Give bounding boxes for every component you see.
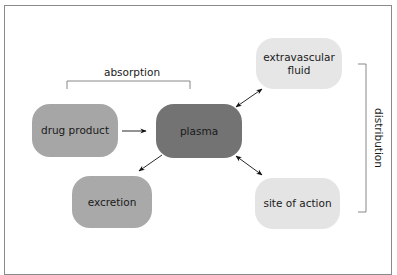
node-site-of-action: site of action bbox=[255, 178, 340, 229]
node-site-of-action-label: site of action bbox=[263, 197, 331, 210]
distribution-label: distribution bbox=[373, 105, 385, 171]
node-extravascular-fluid-label-line1: extravascular bbox=[263, 51, 335, 64]
arrow-plasma-to-excretion bbox=[139, 155, 162, 171]
absorption-bracket bbox=[67, 81, 190, 89]
node-plasma: plasma bbox=[156, 104, 242, 158]
node-excretion: excretion bbox=[72, 176, 152, 228]
node-excretion-label: excretion bbox=[88, 196, 137, 209]
arrow-plasma-extravascular bbox=[236, 89, 262, 107]
distribution-bracket bbox=[358, 64, 366, 212]
node-extravascular-fluid: extravascular fluid bbox=[256, 38, 342, 89]
node-extravascular-fluid-label-line2: fluid bbox=[288, 64, 311, 77]
node-drug-product: drug product bbox=[32, 104, 118, 157]
node-plasma-label: plasma bbox=[180, 125, 218, 138]
absorption-label: absorption bbox=[104, 66, 160, 78]
node-drug-product-label: drug product bbox=[41, 124, 109, 137]
arrow-plasma-site-of-action bbox=[236, 156, 262, 175]
